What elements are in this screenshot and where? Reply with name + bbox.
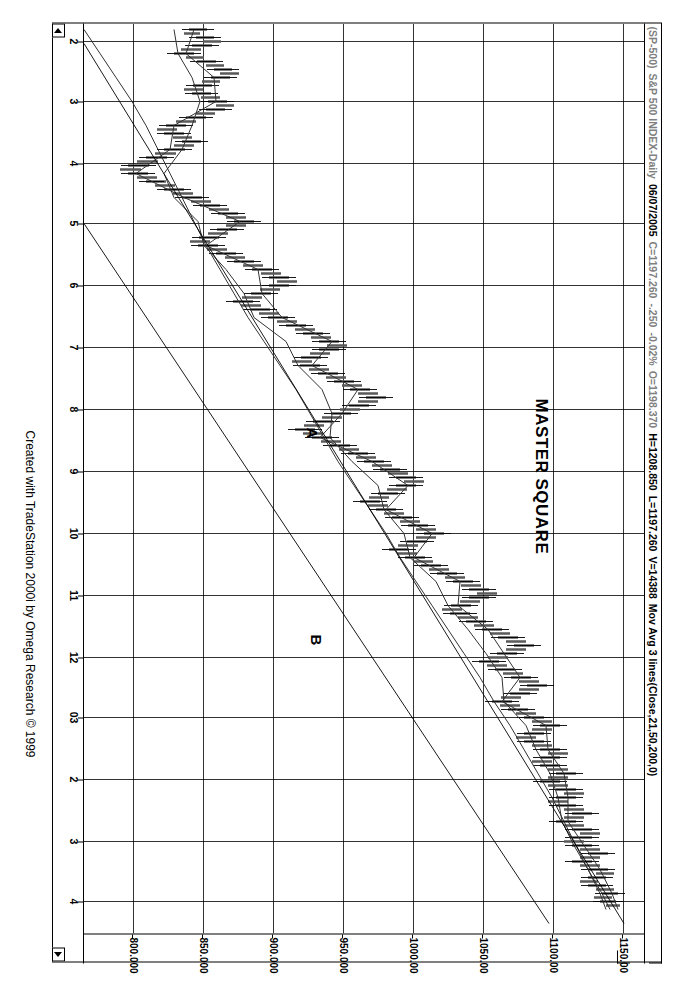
- date-label-8: 10: [68, 527, 80, 539]
- date-label-12: 2: [68, 776, 80, 782]
- title-volume: V=14388: [647, 556, 659, 598]
- date-label-11: 03: [68, 711, 80, 723]
- title-high: H=1208.850: [647, 433, 659, 491]
- price-label-1100: 1100.00: [548, 937, 559, 973]
- date-label-5: 7: [68, 344, 80, 350]
- corner-mark-bottom-right: [617, 950, 630, 963]
- title-open: O=1198.370: [647, 370, 659, 428]
- price-label-950: 950.000: [338, 937, 349, 973]
- chart-window: (SP-500)S&P 500 INDEX-Daily06/07/2005C=1…: [52, 22, 662, 962]
- date-label-4: 6: [68, 282, 80, 288]
- chevron-right-icon: [55, 952, 63, 957]
- screenshot-page: (SP-500)S&P 500 INDEX-Daily06/07/2005C=1…: [0, 0, 692, 993]
- price-label-800: 800.000: [128, 937, 139, 973]
- price-label-1000: 1000.00: [408, 937, 419, 973]
- date-label-6: 8: [68, 406, 80, 412]
- price-axis[interactable]: 1150.00 1100.00 1050.00 1000.00 950.000 …: [84, 933, 644, 962]
- title-change: -.250: [647, 303, 659, 327]
- title-close: C=1197.260: [647, 241, 659, 298]
- corner-mark-top-right: [649, 950, 662, 963]
- scroll-left-button[interactable]: [52, 23, 65, 37]
- date-label-2: 4: [68, 160, 80, 166]
- price-label-850: 850.000: [198, 937, 209, 973]
- title-change-pct: -0.02%: [647, 332, 659, 365]
- title-indicator: Mov Avg 3 lines(Close,21,50,200,0): [647, 603, 659, 776]
- date-label-1: 3: [68, 98, 80, 104]
- price-label-1050: 1050.00: [478, 937, 489, 973]
- title-instrument-name: S&P 500 INDEX-Daily: [647, 73, 659, 178]
- date-label-7: 9: [68, 468, 80, 474]
- title-symbol: (SP-500): [647, 26, 659, 68]
- date-label-9: 11: [68, 589, 80, 600]
- scroll-right-button[interactable]: [52, 947, 65, 961]
- date-axis[interactable]: 2 3 4 5 6 7 8 9 10 11 12: [53, 23, 84, 963]
- price-label-900: 900.000: [268, 937, 279, 973]
- chart-title-bar: (SP-500)S&P 500 INDEX-Daily06/07/2005C=1…: [644, 23, 661, 963]
- title-low: L=1197.260: [647, 495, 659, 551]
- chart-stage: (SP-500)S&P 500 INDEX-Daily06/07/2005C=1…: [0, 0, 692, 993]
- annotation-point-b: B: [308, 634, 325, 645]
- title-date: 06/07/2005: [647, 183, 659, 236]
- footer-credit: Created with TradeStation 2000i by Omega…: [23, 430, 37, 757]
- date-label-0: 2: [68, 38, 80, 44]
- annotation-point-a: A: [304, 427, 321, 438]
- date-label-10: 12: [68, 651, 80, 663]
- chart-canvas[interactable]: [84, 23, 644, 933]
- date-label-3: 5: [68, 220, 80, 226]
- trendline-secondary: [84, 223, 549, 923]
- annotation-master-square: MASTER SQUARE: [531, 398, 551, 554]
- date-label-13: 3: [68, 838, 80, 844]
- date-label-14: 4: [68, 898, 80, 904]
- chart-plot-area[interactable]: [84, 23, 644, 933]
- chevron-left-icon: [55, 28, 63, 33]
